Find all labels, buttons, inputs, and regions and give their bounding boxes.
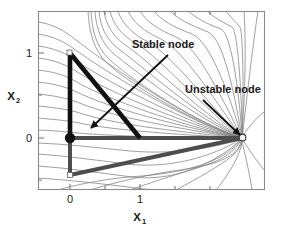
ytick-label-0: 0 — [26, 132, 32, 144]
stable-node-marker — [65, 133, 75, 143]
xtick-label-0: 0 — [67, 193, 73, 205]
x-axis-title-sub: 1 — [142, 217, 146, 226]
phase-portrait-figure: 1 0 0 1 X 2 X 1 Stable node Unstable nod… — [0, 0, 283, 229]
unstable-node-label: Unstable node — [185, 83, 261, 95]
saddle-marker-bottom-icon — [68, 173, 73, 178]
ytick-label-1: 1 — [26, 47, 32, 59]
unstable-node-marker — [239, 134, 246, 141]
saddle-marker-top-icon — [67, 50, 72, 55]
stable-node-label: Stable node — [132, 38, 194, 50]
y-axis-title-main: X — [7, 90, 15, 102]
x-axis-title-main: X — [133, 211, 141, 223]
xtick-label-1: 1 — [137, 193, 143, 205]
y-axis-title-sub: 2 — [16, 96, 20, 105]
